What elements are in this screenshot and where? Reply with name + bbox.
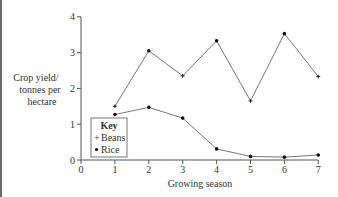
x-tick-label: 5 — [248, 164, 253, 175]
legend-symbol-beans: + — [94, 132, 100, 143]
legend-label-rice: Rice — [101, 144, 120, 155]
y-axis-title-line: tonnes per — [19, 84, 61, 95]
legend-title: Key — [100, 120, 117, 131]
x-tick-label: 4 — [214, 164, 219, 175]
y-tick-label: 1 — [70, 119, 75, 130]
x-tick-label: 3 — [180, 164, 185, 175]
y-tick-label: 3 — [70, 47, 75, 58]
x-tick-label: 2 — [146, 164, 151, 175]
y-tick-label: 0 — [70, 155, 75, 166]
series-lines — [113, 32, 320, 159]
marker-dot — [215, 39, 219, 43]
x-tick-label: 0 — [79, 164, 84, 175]
marker-dot — [181, 116, 185, 120]
marker-plus — [249, 99, 253, 103]
x-tick-label: 7 — [316, 164, 321, 175]
marker-dot — [147, 49, 151, 53]
marker-dot — [317, 153, 321, 157]
marker-dot — [249, 155, 253, 159]
y-axis-title-line: hectare — [28, 96, 57, 107]
x-tick-label: 6 — [282, 164, 287, 175]
y-axis-title-line: Crop yield/ — [13, 72, 58, 83]
marker-dot — [215, 147, 219, 151]
x-axis-title: Growing season — [168, 178, 233, 189]
x-tick-label: 1 — [112, 164, 117, 175]
marker-dot — [147, 106, 151, 110]
legend-label-beans: Beans — [101, 132, 126, 143]
series-line-beans — [115, 34, 318, 107]
marker-dot — [113, 113, 117, 117]
y-axis-title: Crop yield/tonnes perhectare — [13, 72, 61, 107]
marker-dot — [283, 155, 287, 159]
legend: Key + Beans Rice — [91, 118, 127, 157]
legend-symbol-rice — [95, 148, 98, 151]
y-tick-label: 2 — [70, 83, 75, 94]
line-chart: 0123401234567 Crop yield/tonnes perhecta… — [0, 0, 338, 197]
marker-dot — [283, 32, 287, 36]
y-tick-label: 4 — [70, 11, 75, 22]
